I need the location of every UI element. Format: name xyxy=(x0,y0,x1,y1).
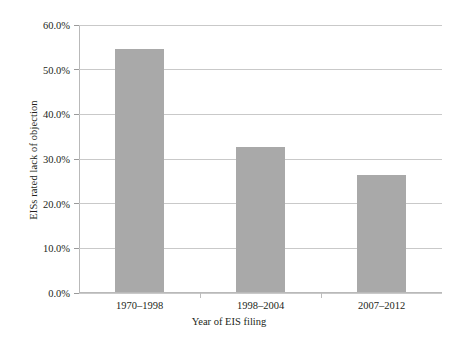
y-tick-label: 0.0% xyxy=(48,288,70,299)
y-tick-mark xyxy=(74,203,79,204)
x-axis-title: Year of EIS filing xyxy=(0,316,458,327)
x-tick-label: 1998–2004 xyxy=(237,300,284,311)
plot-area: 0.0%10.0%20.0%30.0%40.0%50.0%60.0% xyxy=(79,25,442,293)
x-tick-mark xyxy=(200,293,201,298)
y-tick-mark xyxy=(74,248,79,249)
y-tick-mark xyxy=(74,69,79,70)
y-tick-label: 10.0% xyxy=(43,243,70,254)
y-tick-label: 40.0% xyxy=(43,109,70,120)
x-tick-mark xyxy=(321,293,322,298)
y-tick-mark xyxy=(74,114,79,115)
gridline xyxy=(79,25,442,26)
x-tick-label: 1970–1998 xyxy=(116,300,163,311)
bar xyxy=(236,147,285,292)
y-tick-label: 30.0% xyxy=(43,154,70,165)
x-tick-label: 2007–2012 xyxy=(358,300,405,311)
bar xyxy=(115,49,164,292)
y-axis-title: EISs rated lack of objection xyxy=(28,20,42,300)
y-tick-mark xyxy=(74,25,79,26)
y-tick-label: 60.0% xyxy=(43,20,70,31)
y-tick-label: 50.0% xyxy=(43,64,70,75)
bar-chart: EISs rated lack of objection 0.0%10.0%20… xyxy=(0,0,458,344)
gridline xyxy=(79,293,442,294)
y-tick-mark xyxy=(74,293,79,294)
bar xyxy=(357,175,406,292)
y-tick-mark xyxy=(74,159,79,160)
y-tick-label: 20.0% xyxy=(43,198,70,209)
